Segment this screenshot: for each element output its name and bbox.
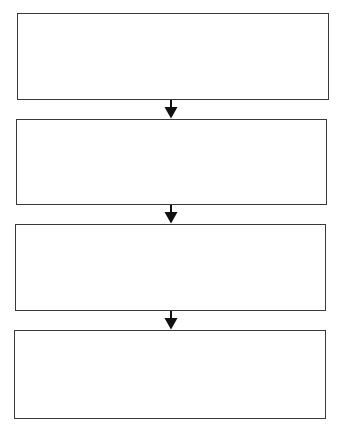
- arrow-down-icon: [164, 100, 178, 119]
- flowchart-box-step-2: [16, 119, 327, 205]
- arrow-down-icon: [164, 311, 178, 330]
- flowchart-box-step-3: [15, 224, 326, 311]
- flowchart-diagram: [0, 0, 341, 427]
- flowchart-box-step-1: [17, 13, 329, 100]
- arrow-down-icon: [164, 205, 178, 224]
- flowchart-box-step-4: [14, 330, 326, 419]
